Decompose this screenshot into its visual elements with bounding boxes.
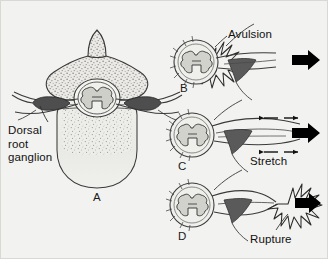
brachial-plexus-injury-figure: Dorsal root ganglion Avulsion Stretch Ru…: [0, 0, 328, 259]
panel-letter-b: B: [180, 82, 188, 94]
avulsion-label: Avulsion: [228, 28, 272, 41]
stretch-label: Stretch: [250, 155, 287, 168]
rupture-label: Rupture: [250, 233, 292, 246]
spinal-cord-panel-a: [78, 82, 116, 114]
panel-letter-c: C: [178, 160, 186, 172]
dorsal-root-ganglion-label: Dorsal root ganglion: [8, 124, 52, 165]
panel-letter-d: D: [178, 230, 186, 242]
panel-letter-a: A: [93, 191, 101, 203]
